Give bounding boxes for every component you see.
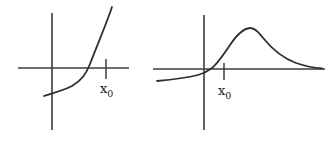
right-plot-bump-curve — [157, 28, 322, 81]
hand-drawn-function-plots-figure: x0 x0 — [0, 0, 328, 141]
left-exponential-plot — [18, 7, 129, 130]
left-x0-label-subscript: 0 — [107, 88, 113, 99]
right-plot-x0-tick-label: x0 — [218, 84, 231, 97]
right-x0-label-subscript: 0 — [225, 90, 231, 101]
right-rise-decay-plot — [153, 15, 325, 130]
left-plot-x0-tick-label: x0 — [100, 82, 113, 95]
plots-canvas — [0, 0, 328, 141]
